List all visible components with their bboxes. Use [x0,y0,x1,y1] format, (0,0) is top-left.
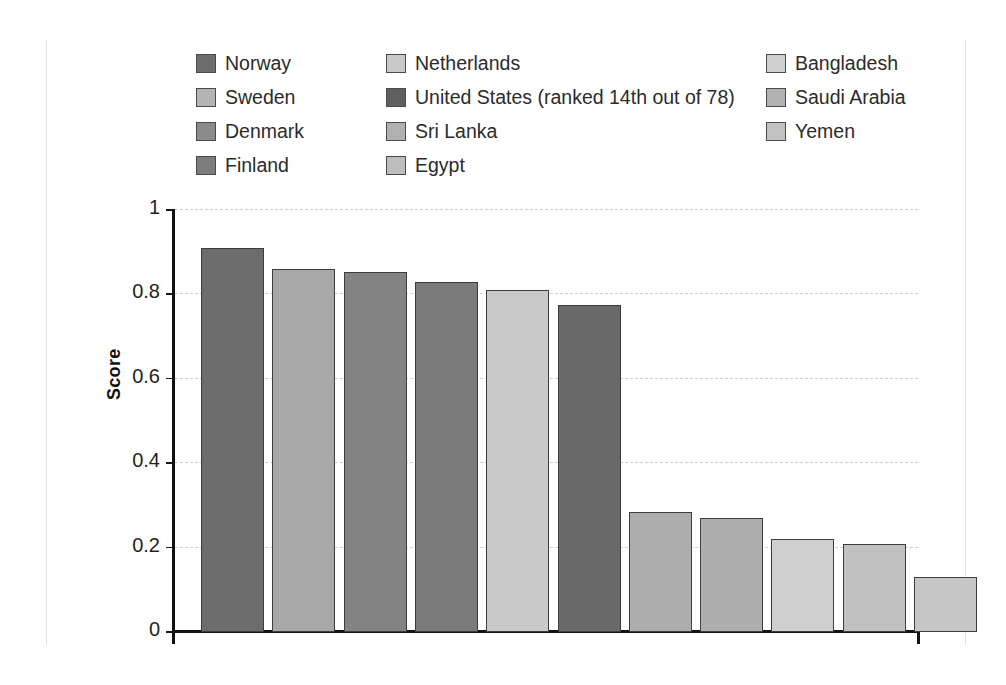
plot-area: 00.20.40.60.81 Score [0,0,1006,685]
bar [629,512,692,632]
bar [272,269,335,632]
chart-page: NorwaySwedenDenmarkFinland NetherlandsUn… [0,0,1006,685]
bar [486,290,549,632]
bar [558,305,621,632]
y-tick-label: 1 [114,196,160,219]
bar [700,518,763,632]
x-axis-end-tick [917,630,920,644]
bar [201,248,264,632]
bar [415,282,478,632]
bar [344,272,407,632]
x-axis-origin-tick [172,630,175,644]
bar [843,544,906,632]
gridline [175,209,918,210]
bar [914,577,977,632]
bar [771,539,834,632]
y-tick-label: 0 [114,618,160,641]
y-tick-label: 0.8 [114,280,160,303]
y-axis-line [172,209,175,633]
y-tick-label: 0.4 [114,449,160,472]
y-axis-label: Score [104,348,125,400]
y-tick-label: 0.2 [114,534,160,557]
